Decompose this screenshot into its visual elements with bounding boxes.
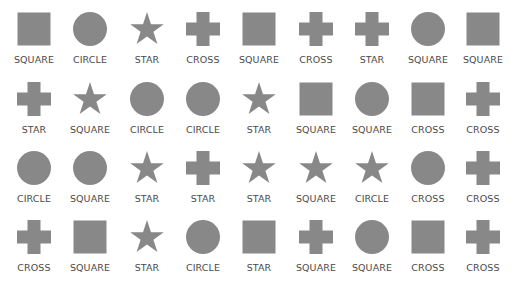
grid-cell: SQUARE bbox=[62, 208, 118, 277]
grid-cell: CROSS bbox=[400, 208, 456, 277]
circle-icon bbox=[17, 151, 51, 185]
grid-cell: STAR bbox=[231, 139, 287, 208]
cross-icon bbox=[17, 220, 51, 254]
grid-cell: SQUARE bbox=[62, 139, 118, 208]
circle-icon bbox=[355, 82, 389, 116]
grid-cell: STAR bbox=[6, 70, 62, 139]
grid-cell: CIRCLE bbox=[175, 70, 231, 139]
square-icon bbox=[73, 220, 107, 254]
grid-cell: CIRCLE bbox=[119, 70, 175, 139]
shape-label: SQUARE bbox=[449, 54, 514, 66]
grid-cell: CROSS bbox=[288, 0, 344, 69]
grid-cell: CROSS bbox=[455, 70, 511, 139]
shape-label-grid: SQUARECIRCLESTARCROSSSQUARECROSSSTARSQUA… bbox=[6, 0, 514, 296]
grid-cell: CIRCLE bbox=[62, 0, 118, 69]
square-icon bbox=[242, 12, 276, 46]
square-icon bbox=[17, 12, 51, 46]
grid-cell: STAR bbox=[175, 139, 231, 208]
star-icon bbox=[242, 151, 276, 185]
star-icon bbox=[130, 12, 164, 46]
square-icon bbox=[411, 82, 445, 116]
shape-label: CROSS bbox=[449, 124, 514, 136]
grid-cell: SQUARE bbox=[288, 139, 344, 208]
cross-icon bbox=[17, 82, 51, 116]
star-icon bbox=[73, 82, 107, 116]
shape-label: CROSS bbox=[449, 193, 514, 205]
grid-cell: CROSS bbox=[175, 0, 231, 69]
cross-icon bbox=[186, 151, 220, 185]
cross-icon bbox=[466, 220, 500, 254]
grid-cell: SQUARE bbox=[344, 208, 400, 277]
grid-cell: CROSS bbox=[400, 139, 456, 208]
square-icon bbox=[466, 12, 500, 46]
grid-cell: CROSS bbox=[400, 70, 456, 139]
cross-icon bbox=[466, 151, 500, 185]
circle-icon bbox=[411, 12, 445, 46]
star-icon bbox=[355, 151, 389, 185]
grid-cell: CIRCLE bbox=[6, 139, 62, 208]
grid-cell: SQUARE bbox=[62, 70, 118, 139]
grid-cell: STAR bbox=[344, 0, 400, 69]
circle-icon bbox=[186, 82, 220, 116]
grid-cell: STAR bbox=[231, 208, 287, 277]
grid-cell: SQUARE bbox=[231, 0, 287, 69]
cross-icon bbox=[299, 220, 333, 254]
grid-cell: SQUARE bbox=[400, 0, 456, 69]
grid-cell: CROSS bbox=[6, 208, 62, 277]
circle-icon bbox=[411, 151, 445, 185]
cross-icon bbox=[299, 12, 333, 46]
grid-cell: CIRCLE bbox=[175, 208, 231, 277]
star-icon bbox=[299, 151, 333, 185]
grid-cell: CIRCLE bbox=[344, 139, 400, 208]
circle-icon bbox=[186, 220, 220, 254]
square-icon bbox=[299, 82, 333, 116]
grid-cell: SQUARE bbox=[455, 0, 511, 69]
grid-cell: STAR bbox=[119, 0, 175, 69]
grid-cell: SQUARE bbox=[6, 0, 62, 69]
cross-icon bbox=[355, 12, 389, 46]
shape-label: CROSS bbox=[449, 262, 514, 274]
circle-icon bbox=[130, 82, 164, 116]
circle-icon bbox=[355, 220, 389, 254]
star-icon bbox=[130, 151, 164, 185]
grid-cell: STAR bbox=[231, 70, 287, 139]
grid-cell: STAR bbox=[119, 139, 175, 208]
grid-cell: SQUARE bbox=[288, 208, 344, 277]
circle-icon bbox=[73, 151, 107, 185]
grid-cell: SQUARE bbox=[344, 70, 400, 139]
square-icon bbox=[242, 220, 276, 254]
square-icon bbox=[411, 220, 445, 254]
grid-cell: SQUARE bbox=[288, 70, 344, 139]
grid-cell: CROSS bbox=[455, 208, 511, 277]
circle-icon bbox=[73, 12, 107, 46]
grid-cell: STAR bbox=[119, 208, 175, 277]
cross-icon bbox=[466, 82, 500, 116]
grid-cell: CROSS bbox=[455, 139, 511, 208]
cross-icon bbox=[186, 12, 220, 46]
star-icon bbox=[130, 220, 164, 254]
star-icon bbox=[242, 82, 276, 116]
